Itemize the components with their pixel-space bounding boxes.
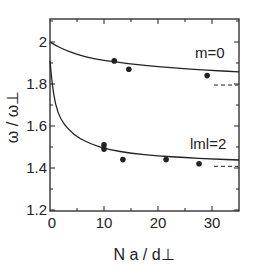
x-tick-label: 0 bbox=[48, 214, 56, 231]
chart: 0102030 1.21.41.61.82 m=0 lml=2 N a / d⊥… bbox=[0, 0, 253, 276]
data-point-m0 bbox=[111, 58, 117, 64]
x-tick-labels: 0102030 bbox=[48, 214, 221, 231]
series-label-m2: lml=2 bbox=[190, 135, 226, 152]
y-tick-labels: 1.21.41.61.82 bbox=[26, 33, 47, 218]
y-tick-label: 1.8 bbox=[26, 75, 47, 92]
data-point-m2 bbox=[120, 157, 126, 163]
x-tick-label: 10 bbox=[96, 214, 113, 231]
y-tick-label: 1.2 bbox=[26, 201, 47, 218]
x-tick-label: 20 bbox=[150, 214, 167, 231]
y-tick-label: 2 bbox=[39, 33, 47, 50]
y-tick-label: 1.6 bbox=[26, 117, 47, 134]
series-label-m0: m=0 bbox=[195, 44, 225, 61]
data-point-m0 bbox=[126, 67, 132, 73]
y-tick-label: 1.4 bbox=[26, 159, 47, 176]
x-axis-label: N a / d⊥ bbox=[113, 246, 174, 263]
data-point-m2 bbox=[163, 157, 169, 163]
x-tick-label: 30 bbox=[204, 214, 221, 231]
y-axis-label: ω / ω⊥ bbox=[4, 91, 21, 143]
data-point-m2 bbox=[196, 161, 202, 167]
data-point-m0 bbox=[204, 73, 210, 79]
data-point-m2 bbox=[101, 146, 107, 152]
